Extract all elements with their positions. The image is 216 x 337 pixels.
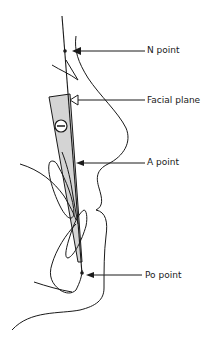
label-a-point: A point (147, 158, 179, 167)
label-n-point: N point (147, 46, 180, 55)
label-facial-plane: Facial plane (147, 96, 200, 105)
po-point-dot (80, 271, 84, 275)
mandibular-border (34, 282, 72, 292)
po-point-leader (86, 272, 142, 278)
label-po-point: Po point (145, 271, 181, 280)
facial-plane-leader (70, 95, 145, 105)
minus-sign-icon (55, 120, 67, 132)
facial-plane-diagram (0, 0, 216, 337)
n-point-leader (72, 47, 145, 55)
orbit-outline (52, 60, 78, 80)
a-point-leader (76, 160, 145, 166)
n-point-dot (63, 49, 67, 53)
